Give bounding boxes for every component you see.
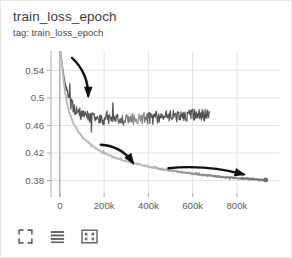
- chart-card: train_loss_epoch tag: train_loss_epoch 0…: [0, 0, 292, 258]
- data-table-button[interactable]: [47, 226, 68, 247]
- svg-text:0.46: 0.46: [25, 120, 44, 131]
- plot-area[interactable]: 0.380.420.460.50.54 0200k400k600k800k: [1, 41, 292, 219]
- y-tick-labels: 0.380.420.460.50.54: [25, 65, 44, 186]
- x-tick-labels: 0200k400k600k800k: [57, 200, 247, 211]
- svg-text:400k: 400k: [138, 200, 159, 211]
- grid-lines: [51, 51, 279, 193]
- svg-text:800k: 800k: [227, 200, 248, 211]
- chart-svg[interactable]: 0.380.420.460.50.54 0200k400k600k800k: [1, 41, 292, 219]
- lines-icon: [50, 229, 65, 244]
- chart-header: train_loss_epoch tag: train_loss_epoch: [13, 9, 283, 39]
- chart-toolbar: [15, 223, 100, 249]
- page-title: train_loss_epoch: [13, 9, 283, 25]
- svg-text:0.54: 0.54: [25, 65, 44, 76]
- svg-text:200k: 200k: [94, 200, 115, 211]
- svg-text:0.5: 0.5: [31, 92, 44, 103]
- svg-text:0.38: 0.38: [25, 175, 44, 186]
- svg-text:600k: 600k: [182, 200, 203, 211]
- fit-domain-icon: [81, 229, 98, 244]
- svg-text:0: 0: [57, 200, 62, 211]
- svg-text:0.42: 0.42: [25, 147, 44, 158]
- expand-icon: [18, 229, 33, 244]
- chart-tag-label: tag: train_loss_epoch: [13, 26, 283, 39]
- fit-domain-button[interactable]: [79, 226, 100, 247]
- expand-button[interactable]: [15, 226, 36, 247]
